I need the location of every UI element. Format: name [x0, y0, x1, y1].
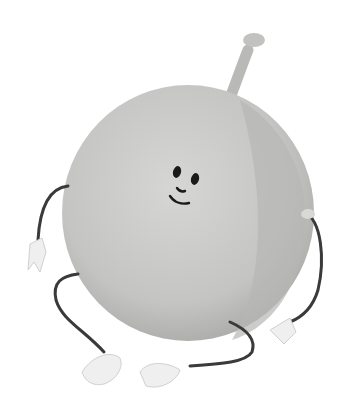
illustration	[0, 0, 349, 414]
plum-character	[0, 0, 349, 414]
plum-body	[62, 85, 314, 341]
left-arm	[28, 186, 68, 272]
